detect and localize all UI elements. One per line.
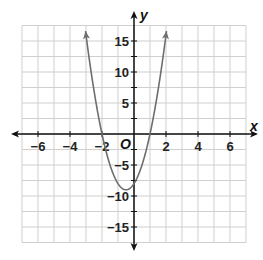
y-axis-label: y bbox=[139, 7, 149, 23]
y-tick-label: 10 bbox=[115, 65, 129, 80]
x-tick-label: −4 bbox=[63, 139, 79, 154]
coordinate-plane: −6−4−224615105−5−10−15 x y O bbox=[0, 0, 263, 260]
x-tick-label: 2 bbox=[162, 139, 169, 154]
y-tick-label: 15 bbox=[115, 34, 129, 49]
axes bbox=[11, 11, 258, 251]
x-axis-label: x bbox=[249, 118, 259, 134]
y-tick-label: −10 bbox=[107, 189, 129, 204]
origin-label: O bbox=[120, 136, 131, 152]
y-tick-label: −5 bbox=[114, 158, 129, 173]
x-tick-label: −6 bbox=[31, 139, 46, 154]
x-tick-label: 4 bbox=[194, 139, 202, 154]
x-tick-label: −2 bbox=[95, 139, 110, 154]
y-tick-label: −15 bbox=[107, 220, 129, 235]
y-tick-label: 5 bbox=[122, 96, 129, 111]
x-tick-label: 6 bbox=[226, 139, 233, 154]
